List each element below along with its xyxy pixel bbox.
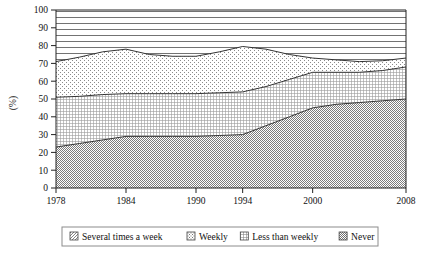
chart-legend: Several times a weekWeeklyLess than week… — [62, 227, 378, 246]
legend-item[interactable]: Never — [339, 232, 375, 242]
legend-item[interactable]: Weekly — [187, 232, 228, 242]
swatch-several-times-a-week-icon — [70, 232, 78, 240]
chart-canvas: 0102030405060708090100 19781984199019942… — [0, 0, 440, 262]
x-axis-group: 197819841990199420002008 — [47, 188, 416, 206]
y-tick-label: 20 — [39, 148, 49, 158]
legend-item[interactable]: Several times a week — [70, 232, 163, 242]
y-tick-label: 0 — [43, 183, 48, 193]
y-tick-label: 50 — [39, 94, 49, 104]
x-tick-label: 1994 — [233, 196, 252, 206]
y-tick-label: 90 — [39, 23, 49, 33]
y-tick-label: 100 — [34, 5, 49, 15]
y-axis-group: 0102030405060708090100 — [34, 5, 56, 193]
x-tick-label: 1990 — [187, 196, 206, 206]
y-tick-label: 80 — [39, 41, 49, 51]
y-tick-label: 10 — [39, 166, 49, 176]
legend-label: Several times a week — [82, 232, 163, 242]
area-series-group — [56, 10, 406, 188]
legend-item[interactable]: Less than weekly — [240, 232, 318, 242]
y-tick-label: 30 — [39, 130, 49, 140]
swatch-never-icon — [339, 232, 347, 240]
swatch-weekly-icon — [187, 232, 195, 240]
x-tick-label: 2000 — [303, 196, 322, 206]
x-tick-label: 2008 — [397, 196, 416, 206]
y-tick-label: 40 — [39, 112, 49, 122]
x-tick-label: 1984 — [117, 196, 136, 206]
legend-label: Weekly — [199, 232, 228, 242]
swatch-less-than-weekly-icon — [240, 232, 248, 240]
y-tick-label: 70 — [39, 59, 49, 69]
y-axis-title: (%) — [8, 96, 19, 110]
x-tick-label: 1978 — [47, 196, 66, 206]
legend-label: Less than weekly — [252, 232, 318, 242]
legend-label: Never — [351, 232, 375, 242]
y-tick-label: 60 — [39, 77, 49, 87]
stacked-area-chart: 0102030405060708090100 19781984199019942… — [0, 0, 440, 262]
